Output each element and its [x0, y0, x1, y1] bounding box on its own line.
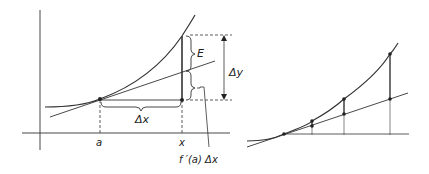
E-brace	[186, 36, 195, 71]
tangency-point-right	[282, 132, 286, 136]
point-x	[180, 98, 184, 102]
label-a: a	[96, 137, 102, 148]
point-a	[98, 97, 102, 101]
label-differential: f ′(a) Δx	[179, 154, 218, 165]
error-segment-3	[388, 52, 392, 135]
linear-approximation-figure: E Δy Δx a x f ′(a) Δx	[0, 0, 429, 174]
differential-leader	[197, 87, 209, 147]
label-delta-x: Δx	[134, 113, 150, 126]
error-segment-2	[342, 97, 346, 135]
arrow-up-icon	[221, 35, 227, 41]
label-x: x	[178, 137, 185, 148]
left-panel: E Δy Δx a x f ′(a) Δx	[22, 10, 244, 165]
error-segment-1	[310, 119, 314, 135]
right-panel	[247, 43, 409, 147]
arrow-down-icon	[221, 94, 227, 100]
differential-brace	[186, 71, 195, 100]
function-curve-right	[247, 43, 398, 141]
label-delta-y: Δy	[228, 66, 244, 79]
label-E: E	[197, 47, 204, 60]
delta-x-brace	[101, 102, 181, 111]
tangent-line-right	[247, 93, 408, 147]
